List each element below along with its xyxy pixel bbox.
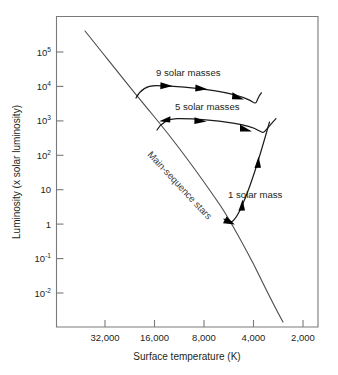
y-tick-label-4: 10 bbox=[40, 184, 51, 195]
x-tick-label-2: 8,000 bbox=[192, 332, 216, 343]
track-5-arrowhead-2 bbox=[194, 117, 206, 124]
y-axis-tick-labels: 105 104 103 102 10 1 10-1 10-2 bbox=[35, 46, 52, 299]
track-1-arrowhead-3 bbox=[255, 157, 262, 168]
track-9-solar-masses bbox=[136, 82, 262, 103]
y-axis-ticks bbox=[57, 52, 64, 293]
plot-frame-border bbox=[57, 17, 319, 328]
hr-diagram-figure: 105 104 103 102 10 1 10-1 10-2 32,000 16… bbox=[0, 0, 338, 375]
y-tick-label-7: 10-2 bbox=[35, 287, 52, 299]
x-tick-label-0: 32,000 bbox=[90, 332, 119, 343]
annotation-9-solar-masses: 9 solar masses bbox=[156, 67, 221, 78]
y-tick-label-0: 105 bbox=[37, 46, 52, 58]
track-5-solar-masses bbox=[157, 116, 276, 132]
y-tick-label-6: 10-1 bbox=[35, 252, 52, 264]
track-9-arrowhead-2 bbox=[195, 85, 207, 92]
track-1-solar-mass bbox=[223, 122, 270, 225]
axes-frame bbox=[57, 17, 319, 328]
annotation-5-solar-masses: 5 solar masses bbox=[175, 101, 240, 112]
y-tick-label-3: 102 bbox=[37, 149, 52, 161]
chart-canvas: 105 104 103 102 10 1 10-1 10-2 32,000 16… bbox=[0, 0, 338, 375]
y-tick-label-5: 1 bbox=[46, 219, 51, 230]
track-1-solar-mass-path bbox=[224, 122, 270, 222]
y-tick-label-2: 103 bbox=[37, 114, 52, 126]
track-5-arrowhead-1 bbox=[159, 116, 170, 122]
annotation-main-sequence-stars: Main-sequence stars bbox=[146, 149, 215, 222]
track-9-arrowhead-1 bbox=[160, 82, 172, 89]
x-tick-label-1: 16,000 bbox=[140, 332, 169, 343]
x-tick-label-3: 4,000 bbox=[242, 332, 266, 343]
track-5-solar-masses-path bbox=[157, 119, 276, 133]
x-axis-title: Surface temperature (K) bbox=[133, 351, 240, 362]
x-axis-ticks bbox=[105, 320, 303, 327]
annotation-1-solar-mass: 1 solar mass bbox=[228, 189, 283, 200]
x-tick-label-4: 2,000 bbox=[291, 332, 315, 343]
y-tick-label-1: 104 bbox=[37, 80, 52, 92]
track-9-arrowhead-3 bbox=[232, 92, 244, 99]
y-axis-title: Luminosity (x solar luminosity) bbox=[11, 105, 22, 239]
x-axis-tick-labels: 32,000 16,000 8,000 4,000 2,000 bbox=[90, 332, 314, 343]
